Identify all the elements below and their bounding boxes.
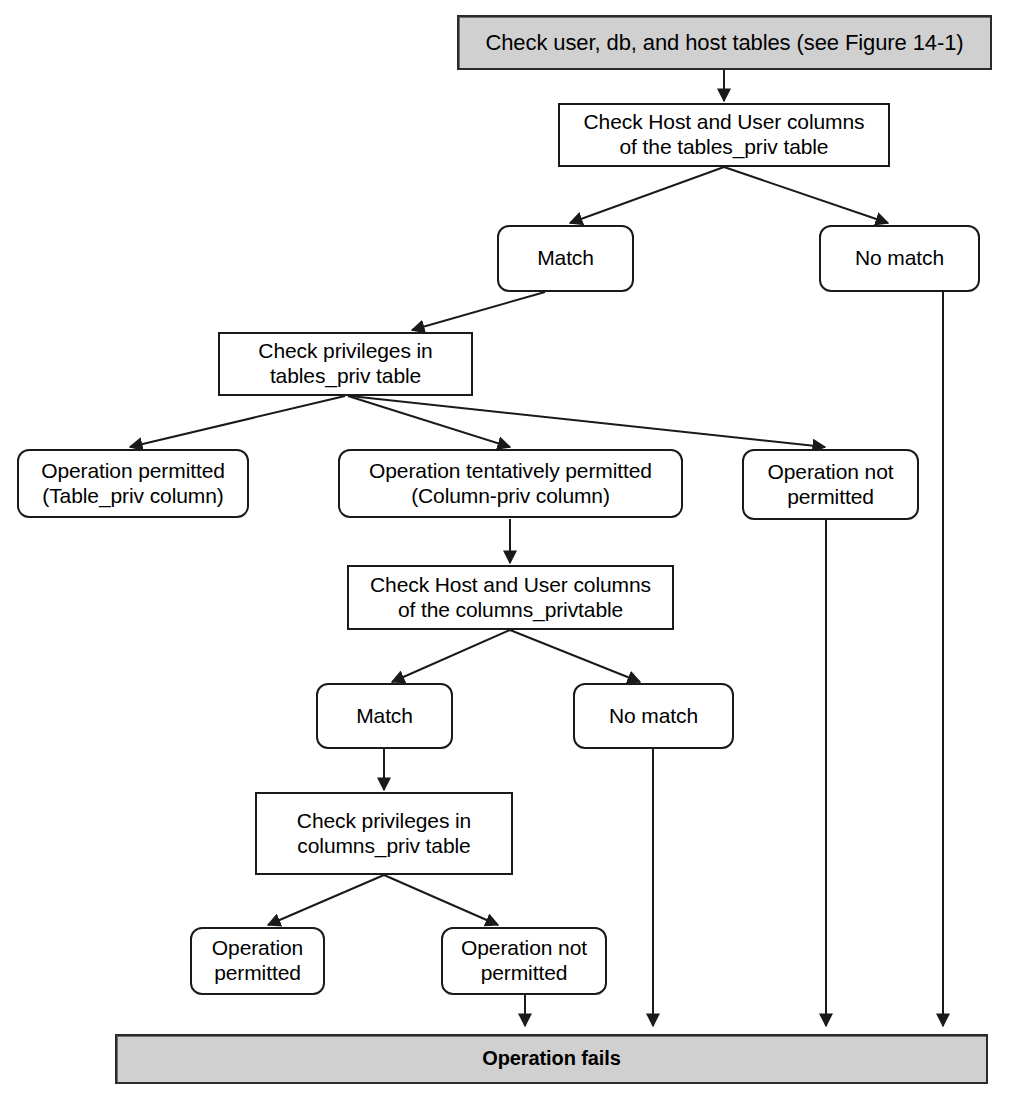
- edge-check-tables-to-match1: [570, 167, 724, 223]
- node-check-privileges-columns-priv: Check privileges in columns_priv table: [255, 792, 513, 875]
- edge-check-columns-to-nomatch2: [510, 630, 640, 682]
- edge-check-columns-to-match2: [392, 630, 510, 682]
- edge-match1-to-check-priv-tables: [412, 292, 545, 330]
- node-operation-tentatively-permitted: Operation tentatively permitted (Column-…: [338, 449, 683, 518]
- node-operation-not-permitted-1: Operation not permitted: [742, 449, 919, 520]
- edge-check-priv-tables-to-op-not-permitted1: [350, 396, 825, 447]
- node-start-banner: Check user, db, and host tables (see Fig…: [457, 15, 992, 70]
- edge-check-priv-tables-to-op-permitted: [130, 396, 345, 447]
- node-operation-fails-banner: Operation fails: [115, 1034, 988, 1084]
- node-check-host-user-columns-priv: Check Host and User columns of the colum…: [347, 565, 674, 630]
- node-check-host-user-tables-priv: Check Host and User columns of the table…: [558, 103, 890, 167]
- edge-check-priv-columns-to-op-not-permitted2: [384, 875, 498, 925]
- node-operation-permitted-table-priv: Operation permitted (Table_priv column): [17, 449, 249, 518]
- edge-check-priv-tables-to-op-tentative: [348, 396, 510, 447]
- edge-check-priv-columns-to-op-permitted2: [268, 875, 384, 925]
- flowchart-figure: Check user, db, and host tables (see Fig…: [0, 0, 1016, 1095]
- edge-check-tables-to-nomatch1: [724, 167, 888, 223]
- node-operation-permitted-2: Operation permitted: [190, 927, 325, 995]
- node-check-privileges-tables-priv: Check privileges in tables_priv table: [218, 332, 473, 396]
- node-no-match-2: No match: [573, 683, 734, 749]
- node-operation-not-permitted-2: Operation not permitted: [441, 927, 607, 995]
- node-match-2: Match: [316, 683, 453, 749]
- node-match-1: Match: [497, 225, 634, 292]
- node-no-match-1: No match: [819, 225, 980, 292]
